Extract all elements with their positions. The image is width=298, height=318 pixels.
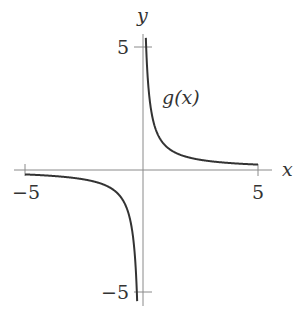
y-tick-label-5: 5	[117, 36, 129, 58]
y-tick-label-neg5: −5	[101, 281, 129, 303]
function-label: g(x)	[162, 86, 200, 108]
x-axis-label: x	[282, 158, 293, 180]
x-tick-label-neg5: −5	[12, 181, 40, 203]
x-tick-label-5: 5	[252, 181, 264, 203]
chart: y x −5 5 5 −5 g(x)	[0, 0, 298, 318]
y-axis-label: y	[136, 4, 148, 26]
